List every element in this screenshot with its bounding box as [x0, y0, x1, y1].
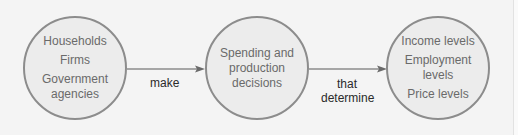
node-text-production: production: [229, 61, 285, 76]
node-text-spending: Spending and: [220, 46, 294, 61]
edge-make: make: [127, 62, 205, 102]
edge-label-make: make: [150, 76, 179, 91]
node-text-households: Households: [43, 34, 106, 49]
node-text-income-levels: Income levels: [401, 34, 474, 49]
node-outcomes: Income levels Employment levels Price le…: [386, 16, 490, 120]
right-edge-panel: [514, 0, 518, 135]
node-text-employment-levels: levels: [423, 68, 454, 83]
node-economic-actors: Households Firms Government agencies: [23, 16, 127, 120]
node-text-decisions: decisions: [232, 76, 282, 91]
node-text-agencies: agencies: [51, 87, 99, 102]
node-text-employment: Employment: [405, 53, 472, 68]
edge-label-that: that: [337, 77, 357, 92]
node-text-firms: Firms: [60, 53, 90, 68]
node-decisions: Spending and production decisions: [205, 16, 309, 120]
edge-that-determine: that determine: [309, 62, 387, 107]
edge-label-determine: determine: [321, 91, 374, 106]
arrow-right-icon: [127, 62, 205, 76]
node-text-price-levels: Price levels: [407, 87, 468, 102]
node-text-government: Government: [42, 72, 108, 87]
arrow-right-icon: [309, 62, 387, 76]
